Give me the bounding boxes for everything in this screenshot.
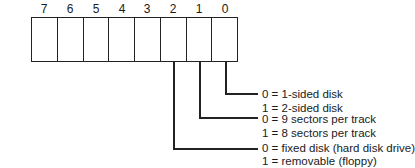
bit-cell-2: [161, 18, 187, 61]
bit-number-7: 7: [31, 2, 57, 16]
bit-cell-6: [58, 18, 84, 61]
bit-cell-7: [32, 18, 58, 61]
legend-bit2-line1: 0 = fixed disk (hard disk drive): [262, 141, 415, 155]
connector-bit2-vertical: [173, 62, 175, 149]
bit-number-3: 3: [134, 2, 160, 16]
bit-cell-0: [212, 18, 237, 61]
bit-cell-1: [187, 18, 213, 61]
legend-bit1-line1: 0 = 9 sectors per track: [262, 112, 376, 126]
bit-cell-4: [109, 18, 135, 61]
bit-cell-5: [84, 18, 110, 61]
bit-number-2: 2: [160, 2, 186, 16]
connector-bit0-horizontal: [225, 93, 258, 95]
bit-number-4: 4: [109, 2, 135, 16]
connector-bit0-vertical: [225, 62, 227, 94]
legend-bit2-line2: 1 = removable (floppy): [262, 154, 377, 168]
bit-number-1: 1: [186, 2, 212, 16]
bit-number-0: 0: [212, 2, 238, 16]
connector-bit1-vertical: [199, 62, 201, 118]
legend-bit1-line2: 1 = 8 sectors per track: [262, 126, 376, 140]
connector-bit1-horizontal: [199, 117, 258, 119]
bit-number-6: 6: [57, 2, 83, 16]
bit-number-5: 5: [83, 2, 109, 16]
bit-cell-3: [135, 18, 161, 61]
legend-bit0-line1: 0 = 1-sided disk: [262, 87, 343, 101]
connector-bit2-horizontal: [173, 148, 258, 150]
register-box: [31, 17, 238, 62]
